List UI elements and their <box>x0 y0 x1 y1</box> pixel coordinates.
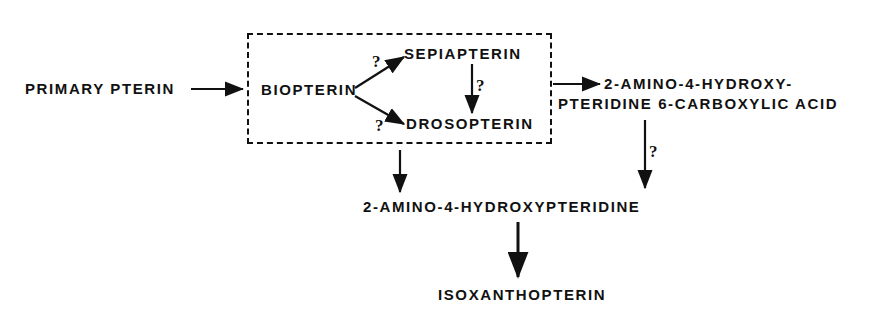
node-hydroxypteridine: 2-AMINO-4-HYDROXYPTERIDINE <box>363 197 640 217</box>
node-carboxylic-acid-line2: PTERIDINE 6-CARBOXYLIC ACID <box>558 94 838 114</box>
node-isoxanthopterin: ISOXANTHOPTERIN <box>438 285 606 305</box>
node-carboxylic-acid-line1: 2-AMINO-4-HYDROXY- <box>604 74 793 94</box>
node-drosopterin: DROSOPTERIN <box>406 114 534 134</box>
question-mark-sepiapterin-to-drosopterin: ? <box>476 77 485 94</box>
question-mark-biopterin-to-drosopterin: ? <box>375 117 384 134</box>
question-mark-biopterin-to-sepiapterin: ? <box>372 53 381 70</box>
question-mark-carboxylic-acid-to-hydroxypteridine: ? <box>649 143 658 160</box>
node-biopterin: BIOPTERIN <box>261 80 357 100</box>
node-sepiapterin: SEPIAPTERIN <box>404 44 522 64</box>
pterin-pathway-diagram: PRIMARY PTERIN BIOPTERIN SEPIAPTERIN DRO… <box>0 0 881 319</box>
node-primary-pterin: PRIMARY PTERIN <box>25 79 175 99</box>
